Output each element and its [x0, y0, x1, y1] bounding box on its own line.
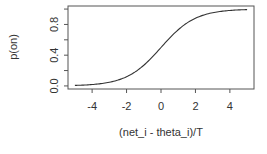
x-tick-label: -2 — [122, 100, 132, 112]
x-axis: -4-2024 — [87, 89, 233, 112]
x-tick-label: 0 — [158, 100, 164, 112]
series-line-p-on — [75, 10, 247, 86]
x-tick-label: -4 — [87, 100, 97, 112]
chart: -4-2024 0.00.40.8 (net_i - theta_i)/T p(… — [0, 0, 267, 154]
x-tick-label: 2 — [192, 100, 198, 112]
x-axis-title: (net_i - theta_i)/T — [119, 126, 203, 138]
x-tick-label: 4 — [227, 100, 233, 112]
y-tick-label: 0.8 — [48, 17, 60, 32]
y-tick-label: 0.4 — [48, 48, 60, 63]
y-axis-title: p(on) — [7, 34, 19, 60]
y-axis: 0.00.40.8 — [48, 9, 68, 94]
y-tick-label: 0.0 — [48, 78, 60, 93]
